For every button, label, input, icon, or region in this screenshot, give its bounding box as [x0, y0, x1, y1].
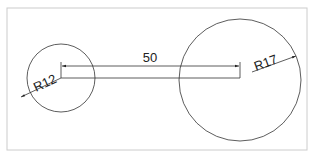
drawing-canvas: 50 R12 R17: [0, 0, 313, 154]
large-circle: [179, 19, 301, 141]
radius-label-r17: R17: [252, 52, 280, 74]
radius-label-r12: R12: [31, 71, 59, 95]
dimension-label-50: 50: [143, 50, 157, 65]
